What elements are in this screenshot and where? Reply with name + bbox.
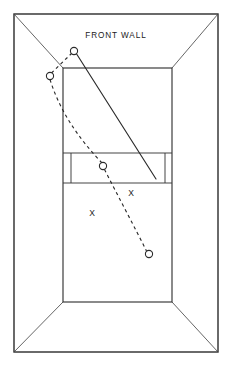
ball-position-1: [70, 47, 77, 54]
court-diagram-svg: X X FRONT WALL: [0, 0, 232, 370]
player-mark-2: X: [89, 208, 95, 218]
ball-position-3: [99, 162, 106, 169]
front-wall-rect: [63, 68, 172, 302]
perspective-line-bottom-left: [14, 302, 63, 352]
player-mark-1: X: [128, 188, 134, 198]
court-diagram: X X FRONT WALL: [0, 0, 232, 370]
ball-position-4: [145, 250, 152, 257]
perspective-line-top-left: [14, 14, 63, 68]
front-wall-label: FRONT WALL: [85, 31, 146, 40]
ball-path-segment-2: [50, 80, 102, 164]
ball-position-2: [46, 72, 53, 79]
ball-path-segment-1: [52, 53, 73, 73]
perspective-line-bottom-right: [172, 302, 218, 352]
ball-path-segment-3: [105, 170, 147, 252]
perspective-line-top-right: [172, 14, 218, 68]
shot-trajectory-line: [76, 53, 156, 179]
